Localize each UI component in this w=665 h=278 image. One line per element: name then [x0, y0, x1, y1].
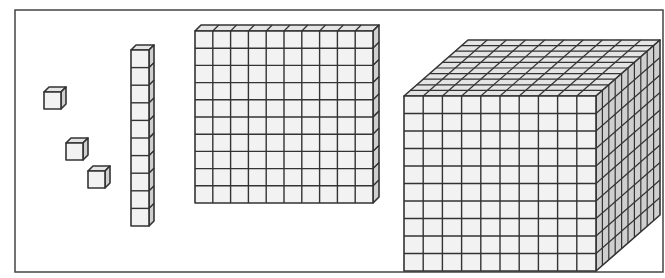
base-ten-blocks-diagram	[0, 0, 665, 278]
thousand-cube	[404, 40, 660, 271]
unit-cube-1	[44, 87, 66, 109]
ten-rod	[131, 45, 154, 226]
unit-cube-3	[88, 166, 110, 188]
unit-cube-2	[66, 138, 88, 160]
diagram-canvas	[0, 0, 665, 278]
hundred-flat	[195, 25, 379, 203]
